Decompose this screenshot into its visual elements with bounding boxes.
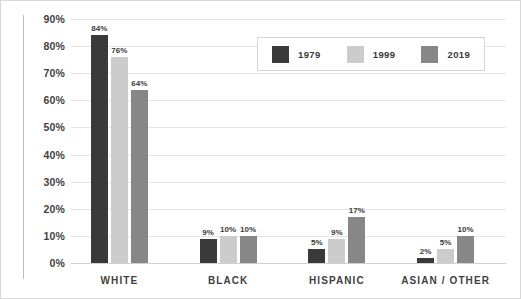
bar-value-label: 17% bbox=[349, 206, 365, 215]
bar-value-label: 10% bbox=[240, 225, 256, 234]
legend-swatch bbox=[421, 46, 438, 63]
y-axis-tick-label: 70% bbox=[19, 67, 65, 79]
bar-value-label: 9% bbox=[331, 228, 343, 237]
y-axis-tick-label: 80% bbox=[19, 40, 65, 52]
x-axis-category-label: WHITE bbox=[101, 275, 139, 286]
bar[interactable]: 5% bbox=[308, 249, 325, 263]
y-axis-tick-label: 0% bbox=[19, 257, 65, 269]
bar-group: 9%10%10% bbox=[200, 19, 257, 263]
legend-item[interactable]: 2019 bbox=[421, 46, 470, 63]
bar[interactable]: 64% bbox=[131, 90, 148, 264]
bar-chart: 90%80%70%60%50%40%30%20%10%0% 84%76%64%9… bbox=[0, 0, 521, 299]
bar[interactable]: 10% bbox=[457, 236, 474, 263]
y-axis-tick-label: 50% bbox=[19, 121, 65, 133]
bar-value-label: 2% bbox=[420, 247, 432, 256]
bar[interactable]: 2% bbox=[417, 258, 434, 263]
bar-group: 84%76%64% bbox=[91, 19, 148, 263]
x-axis-category-label: ASIAN / OTHER bbox=[401, 275, 490, 286]
y-axis-tick-label: 10% bbox=[19, 230, 65, 242]
legend-item[interactable]: 1999 bbox=[347, 46, 396, 63]
bar[interactable]: 17% bbox=[348, 217, 365, 263]
y-axis-tick-label: 30% bbox=[19, 176, 65, 188]
bar[interactable]: 10% bbox=[240, 236, 257, 263]
legend-label: 1999 bbox=[373, 49, 396, 60]
legend-item[interactable]: 1979 bbox=[272, 46, 321, 63]
legend-swatch bbox=[272, 46, 289, 63]
bar[interactable]: 76% bbox=[111, 57, 128, 263]
bar-value-label: 10% bbox=[220, 225, 236, 234]
bar-value-label: 64% bbox=[131, 79, 147, 88]
bar-value-label: 9% bbox=[202, 228, 214, 237]
axis-baseline bbox=[71, 263, 506, 264]
y-axis-tick-label: 90% bbox=[19, 13, 65, 25]
bar-value-label: 76% bbox=[111, 46, 127, 55]
bar[interactable]: 5% bbox=[437, 249, 454, 263]
chart-legend: 197919992019 bbox=[257, 37, 485, 71]
y-axis-tick-label: 40% bbox=[19, 149, 65, 161]
bar-value-label: 10% bbox=[457, 225, 473, 234]
bar[interactable]: 10% bbox=[220, 236, 237, 263]
legend-label: 1979 bbox=[298, 49, 321, 60]
bar-value-label: 84% bbox=[91, 24, 107, 33]
legend-swatch bbox=[347, 46, 364, 63]
legend-label: 2019 bbox=[447, 49, 470, 60]
y-axis-tick-label: 60% bbox=[19, 94, 65, 106]
x-axis-category-label: HISPANIC bbox=[309, 275, 365, 286]
bar[interactable]: 84% bbox=[91, 35, 108, 263]
bar[interactable]: 9% bbox=[328, 239, 345, 263]
bar-value-label: 5% bbox=[311, 238, 323, 247]
x-axis-category-label: BLACK bbox=[208, 275, 249, 286]
bar[interactable]: 9% bbox=[200, 239, 217, 263]
bar-value-label: 5% bbox=[440, 238, 452, 247]
y-axis-tick-label: 20% bbox=[19, 203, 65, 215]
